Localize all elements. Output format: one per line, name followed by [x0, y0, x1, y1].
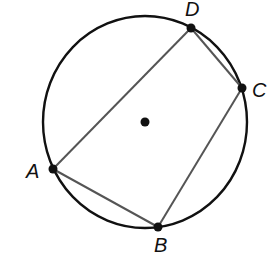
- label-b: B: [154, 234, 167, 256]
- point-d: [187, 24, 196, 33]
- label-d: D: [185, 0, 199, 20]
- segment-cd: [191, 28, 242, 88]
- inscribed-quadrilateral-diagram: A B C D: [0, 0, 280, 261]
- segment-ab: [53, 169, 158, 227]
- point-a: [49, 165, 58, 174]
- point-b: [154, 223, 163, 232]
- label-c: C: [252, 79, 267, 101]
- segment-bc: [158, 88, 242, 227]
- center-point: [141, 118, 150, 127]
- quadrilateral: [53, 28, 242, 227]
- label-a: A: [25, 160, 39, 182]
- segment-da: [53, 28, 191, 169]
- point-c: [238, 84, 247, 93]
